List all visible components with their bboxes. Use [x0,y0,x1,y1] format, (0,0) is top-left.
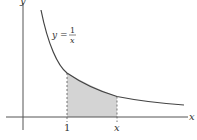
tick-label-x: x [114,122,120,133]
tick-label-one: 1 [64,122,70,133]
curve-label-lhs: y = [51,30,68,40]
curve-label-numerator: 1 [70,26,75,35]
hyperbola-curve [41,10,184,105]
shaded-area [67,73,117,117]
x-axis-label: x [189,111,195,122]
curve-label-denominator: x [70,36,75,45]
area-under-hyperbola-diagram: y x 1 x y = 1 x [0,0,197,140]
y-axis-label: y [19,0,26,6]
